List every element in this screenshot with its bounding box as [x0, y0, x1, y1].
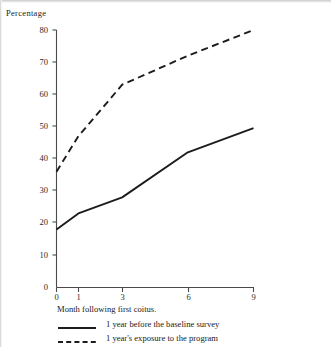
x-tick-label-6: 6 [186, 292, 190, 300]
x-tick-label-3: 3 [120, 292, 124, 300]
x-tick-group: 0 1 3 6 9 [54, 288, 255, 301]
legend-item-baseline: 1 year before the baseline survey [57, 317, 297, 331]
y-tick-label-40: 40 [40, 153, 49, 163]
y-tick-group: 80 70 60 50 40 30 20 10 0 [40, 25, 57, 292]
y-tick-label-20: 20 [40, 217, 49, 227]
legend-label-program: 1 year's exposure to the program [106, 333, 218, 343]
legend-item-program: 1 year's exposure to the program [57, 331, 297, 345]
plot-area: 80 70 60 50 40 30 20 10 0 0 1 3 [0, 0, 331, 300]
y-tick-label-70: 70 [40, 57, 49, 67]
x-tick-label-1: 1 [76, 292, 80, 300]
legend-label-baseline: 1 year before the baseline survey [106, 319, 219, 329]
y-tick-label-30: 30 [40, 185, 49, 195]
y-tick-label-50: 50 [40, 121, 49, 131]
series-line-program [57, 30, 254, 172]
x-tick-label-0: 0 [54, 292, 58, 300]
legend: 1 year before the baseline survey 1 year… [57, 317, 297, 345]
y-tick-label-0: 0 [44, 282, 48, 292]
chart-figure: Percentage 80 70 60 50 40 30 20 10 0 [0, 0, 331, 347]
y-tick-label-80: 80 [40, 25, 49, 35]
series-line-baseline [57, 128, 254, 229]
dashed-line-icon [57, 333, 97, 343]
y-tick-label-60: 60 [40, 89, 49, 99]
x-axis-caption: Month following first coitus. [57, 304, 156, 314]
x-tick-label-9: 9 [251, 292, 255, 300]
solid-line-icon [57, 319, 97, 329]
y-tick-label-10: 10 [40, 250, 49, 260]
